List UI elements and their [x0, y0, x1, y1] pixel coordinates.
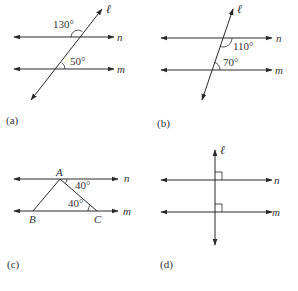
point-c: C — [94, 213, 102, 225]
label-m-d: m — [272, 206, 280, 218]
label-l-d: ℓ — [220, 143, 225, 157]
label-l-a: ℓ — [106, 2, 111, 16]
parallel-lines-diagram: ℓ n m 130° 50° (a) ℓ n m 110° 70° (b) A … — [0, 0, 298, 291]
label-n-b: n — [276, 32, 282, 44]
label-n-d: n — [274, 174, 280, 186]
transversal-l-b — [202, 9, 233, 100]
caption-c: (c) — [7, 258, 20, 271]
angle-label-40-a: 40° — [75, 179, 90, 191]
angle-label-130: 130° — [53, 18, 74, 30]
label-n-a: n — [117, 31, 123, 43]
label-m-a: m — [117, 63, 125, 75]
figure-d: ℓ n m (d) — [160, 143, 280, 271]
point-b: B — [29, 213, 36, 225]
figure-a: ℓ n m 130° 50° (a) — [6, 2, 125, 127]
angle-arc-c — [88, 205, 90, 211]
label-m-c: m — [123, 205, 131, 217]
figure-c: A B C n m 40° 40° (c) — [7, 166, 131, 271]
angle-arc-50 — [62, 63, 65, 69]
right-angle-mark-m — [215, 204, 222, 212]
angle-arc-70 — [215, 62, 220, 70]
angle-arc-a — [65, 179, 67, 184]
caption-d: (d) — [160, 258, 173, 271]
point-a: A — [55, 166, 63, 178]
caption-a: (a) — [6, 114, 19, 127]
angle-label-50: 50° — [70, 55, 85, 67]
caption-b: (b) — [157, 117, 170, 130]
right-angle-mark-n — [215, 172, 222, 180]
angle-label-70: 70° — [223, 56, 238, 68]
angle-label-110: 110° — [233, 40, 254, 52]
figure-b: ℓ n m 110° 70° (b) — [157, 2, 283, 130]
label-l-b: ℓ — [237, 2, 242, 16]
angle-label-40-c: 40° — [68, 197, 83, 209]
label-n-c: n — [124, 172, 130, 184]
label-m-b: m — [275, 64, 283, 76]
